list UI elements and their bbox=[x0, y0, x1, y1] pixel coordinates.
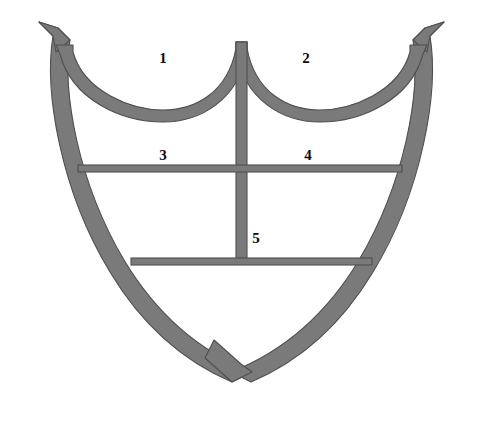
bottom-crossing-point bbox=[205, 340, 252, 382]
upper-left-arch bbox=[56, 42, 247, 122]
shield-frame-graphic bbox=[0, 0, 483, 424]
shield-tracery-diagram: 1 2 3 4 5 bbox=[0, 0, 483, 424]
callout-label-5: 5 bbox=[252, 231, 260, 246]
upper-horizontal-transom bbox=[78, 165, 402, 172]
lower-horizontal-transom bbox=[131, 258, 372, 265]
callout-label-2: 2 bbox=[302, 51, 310, 66]
callout-label-3: 3 bbox=[159, 148, 167, 163]
callout-label-1: 1 bbox=[159, 51, 167, 66]
center-vertical-mullion bbox=[236, 42, 247, 264]
shield-frame-group bbox=[39, 22, 444, 382]
callout-label-4: 4 bbox=[304, 148, 312, 163]
upper-right-arch bbox=[236, 42, 427, 122]
